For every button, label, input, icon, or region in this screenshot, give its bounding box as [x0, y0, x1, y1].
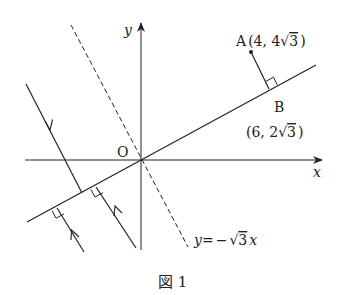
point-B-coords: (6, 2√3) [246, 124, 304, 140]
arrow-up-icon [114, 206, 122, 216]
arrow-down-icon [45, 120, 53, 131]
incident-ray [26, 84, 82, 193]
y-axis-label: y [123, 22, 133, 38]
mirror-line [27, 65, 316, 222]
reflected-ray-2 [96, 187, 136, 248]
point-A-label: A(4, 4√3) [235, 33, 306, 49]
origin-label: O [117, 144, 128, 160]
x-axis-label: x [313, 164, 321, 180]
arrow-up-icon [71, 230, 79, 240]
dashed-line [71, 25, 188, 247]
segment-AB [251, 52, 269, 89]
dashed-line-label: y=−√3x [193, 232, 257, 248]
point-B-label: B [274, 99, 284, 115]
right-angle-B [266, 77, 278, 85]
diagram-canvas: y x O A(4, 4√3) B (6, 2√3) y=−√3x 図 1 [0, 0, 347, 295]
point-A [249, 50, 253, 54]
reflected-ray-1 [57, 208, 84, 252]
figure-caption: 図 1 [158, 273, 187, 291]
